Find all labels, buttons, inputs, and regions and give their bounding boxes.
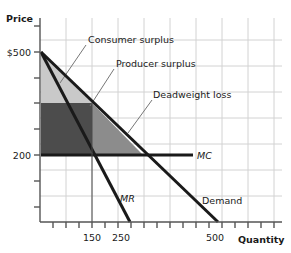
y-axis-title: Price: [6, 13, 33, 24]
x-axis-title: Quantity: [238, 234, 285, 245]
callout-deadweight-loss: Deadweight loss: [153, 89, 231, 100]
y-tick-label-500: $500: [7, 47, 31, 58]
y-tick-label-200: 200: [13, 150, 31, 161]
callout-producer-surplus: Producer surplus: [116, 58, 196, 69]
x-tick-label-500: 500: [206, 232, 224, 243]
curve-label-mr: MR: [120, 193, 135, 204]
x-tick-label-150: 150: [83, 232, 101, 243]
callout-consumer-surplus: Consumer surplus: [88, 34, 174, 45]
curve-label-demand: Demand: [202, 195, 242, 206]
y-axis-ticks: [34, 26, 40, 207]
x-axis-ticks: [53, 222, 274, 228]
monopoly-welfare-chart: Price Quantity $500 200 150 250 500 MC M…: [0, 0, 291, 253]
chart-canvas: Price Quantity $500 200 150 250 500 MC M…: [0, 0, 291, 253]
x-tick-label-250: 250: [112, 232, 130, 243]
curve-label-mc: MC: [197, 150, 212, 161]
region-producer-surplus: [41, 103, 92, 155]
